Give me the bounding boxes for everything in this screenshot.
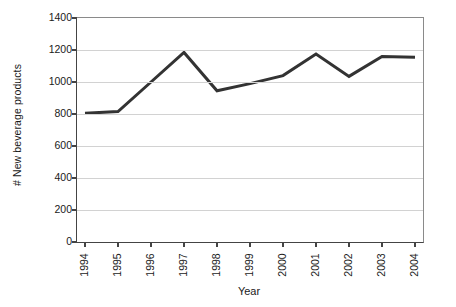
- x-tick-label-text: 1996: [144, 253, 156, 276]
- data-series-line: [77, 18, 423, 242]
- y-tick-mark: [72, 113, 77, 114]
- x-tick-label-text: 2002: [342, 253, 354, 276]
- x-tick-label-text: 2000: [276, 253, 288, 276]
- gridline: [77, 50, 423, 51]
- y-tick-label: 1000: [28, 75, 72, 87]
- x-axis-tick-labels: 1994199519961997199819992000200120022003…: [76, 246, 424, 286]
- x-tick-label-text: 1994: [78, 253, 90, 276]
- y-tick-label: 1400: [28, 11, 72, 23]
- gridline: [77, 146, 423, 147]
- y-tick-mark: [72, 241, 77, 242]
- x-tick-label: 2004: [394, 246, 434, 284]
- y-tick-label: 1200: [28, 43, 72, 55]
- x-axis-title: Year: [76, 285, 422, 297]
- y-axis-tick-labels: 0200400600800100012001400: [28, 11, 72, 245]
- y-tick-mark: [72, 209, 77, 210]
- y-axis-title-text: # New beverage products: [11, 64, 23, 186]
- x-tick-label-text: 1995: [111, 253, 123, 276]
- x-tick-label-text: 2003: [375, 253, 387, 276]
- y-tick-label: 600: [28, 139, 72, 151]
- gridline: [77, 178, 423, 179]
- y-tick-label: 200: [28, 203, 72, 215]
- y-tick-mark: [72, 81, 77, 82]
- y-tick-label: 800: [28, 107, 72, 119]
- plot-area: [76, 17, 424, 243]
- y-tick-mark: [72, 177, 77, 178]
- gridline: [77, 82, 423, 83]
- gridline: [77, 210, 423, 211]
- y-tick-mark: [72, 49, 77, 50]
- x-tick-label-text: 1997: [177, 253, 189, 276]
- x-tick-label-text: 2001: [309, 253, 321, 276]
- y-axis-title: # New beverage products: [6, 0, 28, 250]
- x-tick-label-text: 1998: [210, 253, 222, 276]
- y-tick-label: 400: [28, 171, 72, 183]
- x-tick-label-text: 1999: [243, 253, 255, 276]
- line-chart: # New beverage products 0200400600800100…: [0, 0, 456, 307]
- y-tick-mark: [72, 145, 77, 146]
- x-tick-label-text: 2004: [408, 253, 420, 276]
- gridline: [77, 114, 423, 115]
- y-tick-mark: [72, 17, 77, 18]
